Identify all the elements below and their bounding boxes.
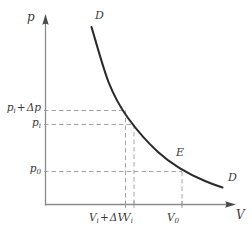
y-tick-pi-dp-base: p — [7, 101, 14, 113]
horizontal-guides-group — [44, 111, 182, 172]
curve-label-bottom-d: D — [228, 172, 237, 183]
x-tick-label-vi: Vi — [111, 212, 145, 224]
y-axis-label: p — [27, 11, 35, 23]
demand-curve-path — [92, 27, 223, 187]
curve-label-top-d: D — [95, 10, 104, 21]
x-tick-v0-base: V — [167, 211, 175, 223]
y-tick-label-p0: p0 — [0, 163, 41, 175]
x-axis-arrow-icon — [225, 201, 236, 207]
y-tick-label-pi: pi — [0, 117, 41, 129]
y-tick-pi-dp-operator: + — [16, 101, 27, 113]
x-tick-vi-base: V — [123, 211, 131, 223]
y-tick-pi-base: p — [32, 116, 39, 128]
y-axis-arrow-icon — [42, 14, 48, 25]
axes-group — [42, 14, 236, 208]
x-tick-vi-subscript: i — [131, 216, 133, 225]
point-e-marker — [181, 171, 183, 173]
y-tick-pi-dp-delta: Δp — [27, 101, 41, 113]
x-tick-vi-dv-base: V — [89, 211, 97, 223]
x-tick-label-v0: V0 — [153, 212, 193, 224]
point-label-e: E — [176, 147, 184, 158]
y-tick-pi-subscript: i — [39, 121, 41, 130]
x-axis-label: V — [236, 209, 245, 221]
demand-curve-group — [92, 27, 223, 187]
y-tick-p0-subscript: 0 — [36, 167, 41, 176]
x-tick-vi-dv-operator: + — [99, 211, 110, 223]
demand-curve-figure: p V D D E pi+Δp pi p0 Vi+ΔV Vi V0 — [0, 0, 252, 238]
x-tick-v0-subscript: 0 — [175, 216, 180, 225]
y-tick-label-pi-plus-delta-p: pi+Δp — [0, 102, 41, 114]
